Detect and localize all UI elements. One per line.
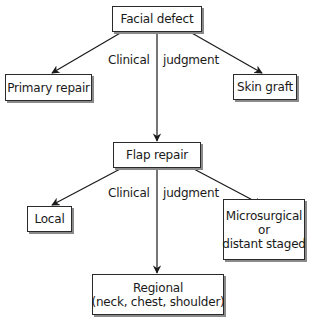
node-local-label: Local	[34, 212, 64, 226]
node-regional-line-2: (neck, chest, shoulder)	[91, 295, 224, 309]
node-microsurgical-line-1: Microsurgical	[226, 209, 303, 223]
node-microsurgical: Microsurgical or distant staged	[223, 199, 305, 260]
node-flap-repair-label: Flap repair	[126, 148, 188, 162]
node-facial-defect-label: Facial defect	[121, 12, 194, 26]
node-facial-defect: Facial defect	[112, 6, 202, 32]
node-regional-line-1: Regional	[133, 281, 183, 295]
edge-label-judgment-bottom: judgment	[163, 186, 219, 200]
flowchart-canvas: Clinical judgment Clinical judgment Faci…	[0, 0, 314, 322]
node-microsurgical-line-2: or	[258, 223, 270, 237]
node-microsurgical-line-3: distant staged	[222, 237, 306, 251]
node-skin-graft: Skin graft	[233, 74, 297, 100]
edge-label-clinical-bottom: Clinical	[108, 186, 150, 200]
node-primary-repair: Primary repair	[5, 74, 92, 101]
node-local: Local	[27, 206, 72, 232]
edge-label-judgment-top: judgment	[163, 53, 219, 67]
edge-label-clinical-top: Clinical	[108, 53, 150, 67]
node-skin-graft-label: Skin graft	[237, 80, 293, 94]
node-flap-repair: Flap repair	[113, 142, 201, 168]
node-primary-repair-label: Primary repair	[7, 81, 90, 95]
node-regional: Regional (neck, chest, shoulder)	[92, 274, 224, 315]
